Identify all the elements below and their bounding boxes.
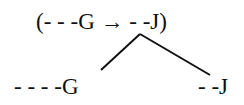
right-branch-expression: - -J (198, 75, 228, 98)
left-branch-line (101, 34, 140, 70)
right-branch-line (140, 34, 210, 75)
left-branch-expression: - - - -G (14, 75, 79, 98)
